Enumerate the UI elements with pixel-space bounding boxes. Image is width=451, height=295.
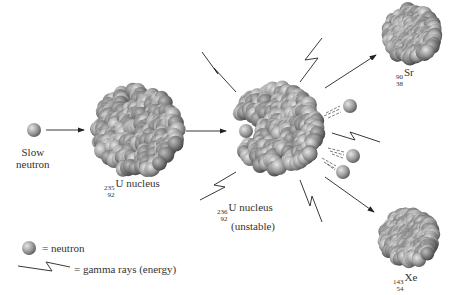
u236-atomic: 92 — [217, 216, 228, 223]
slow-neutron-label-line2: neutron — [16, 158, 50, 170]
slow-neutron — [27, 123, 41, 137]
u236-label: 23692U nucleus (unstable) — [217, 201, 275, 232]
emitted-neutron — [324, 99, 357, 118]
emitted-neutron — [328, 148, 360, 163]
u235-nucleus — [90, 83, 186, 177]
arrow-to-sr90 — [325, 55, 376, 88]
legend-neutron-icon — [22, 241, 36, 255]
u235-suffix: nucleus — [123, 177, 159, 189]
u236-nucleus — [233, 80, 325, 176]
xe143-symbol: Xe — [405, 271, 418, 283]
u236-symbol: U — [229, 201, 237, 213]
legend-neutron-text: = neutron — [42, 242, 85, 254]
sr90-symbol: Sr — [404, 66, 414, 78]
slow-neutron-label: Slow neutron — [16, 146, 50, 170]
u235-label: 23592U nucleus — [104, 177, 160, 196]
sr90-label: 9038Sr — [396, 66, 414, 85]
xe143-nucleus — [378, 207, 441, 268]
xe143-label: 14354Xe — [393, 271, 417, 290]
emitted-neutron — [322, 158, 350, 179]
slow-neutron-label-line1: Slow — [16, 146, 50, 158]
u236-suffix: nucleus — [236, 201, 272, 213]
sr90-atomic: 38 — [396, 81, 403, 88]
u235-symbol: U — [116, 177, 124, 189]
xe143-atomic: 54 — [393, 286, 404, 293]
legend-gamma-text: = gamma rays (energy) — [74, 263, 176, 275]
legend-gamma-icon — [18, 262, 70, 271]
arrow-to-xe143 — [325, 177, 374, 212]
sr90-nucleus — [382, 2, 443, 66]
u235-atomic: 92 — [104, 192, 115, 199]
